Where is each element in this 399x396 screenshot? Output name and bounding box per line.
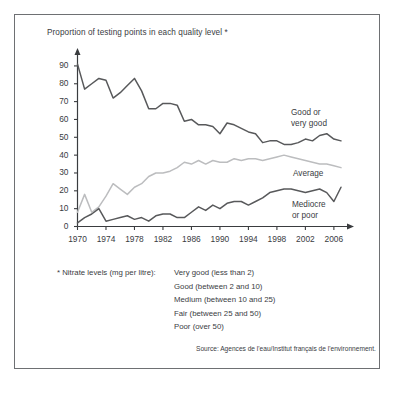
source-credit: Source: Agences de l'eau/Institut frança… bbox=[196, 345, 376, 352]
series-label-average: Average bbox=[293, 169, 323, 180]
series-label-average-text: Average bbox=[293, 169, 323, 180]
x-tick-1986: 1986 bbox=[175, 234, 207, 244]
y-tick-80: 80 bbox=[47, 78, 69, 88]
footnote-item-1: Good (between 2 and 10) bbox=[174, 280, 275, 294]
x-tick-1974: 1974 bbox=[90, 234, 122, 244]
x-tick-1998: 1998 bbox=[261, 234, 293, 244]
y-tick-90: 90 bbox=[47, 60, 69, 70]
y-tick-40: 40 bbox=[47, 150, 69, 160]
x-tick-2006: 2006 bbox=[318, 234, 350, 244]
y-tick-50: 50 bbox=[47, 132, 69, 142]
x-tick-1970: 1970 bbox=[62, 234, 94, 244]
footnote-item-2: Medium (between 10 and 25) bbox=[174, 293, 275, 307]
y-tick-20: 20 bbox=[47, 185, 69, 195]
series-line-good-or-very-good bbox=[78, 64, 342, 144]
footnote-item-list: Very good (less than 2)Good (between 2 a… bbox=[174, 266, 275, 334]
chart-page: Proportion of testing points in each qua… bbox=[0, 0, 399, 396]
y-tick-30: 30 bbox=[47, 167, 69, 177]
y-tick-10: 10 bbox=[47, 203, 69, 213]
line-chart-plot bbox=[0, 0, 399, 396]
series-label-mediocre-line1: Mediocre bbox=[292, 200, 326, 211]
series-label-mediocre-or-poor: Mediocre or poor bbox=[292, 200, 326, 221]
footnote-heading: * Nitrate levels (mg per litre): bbox=[57, 266, 156, 280]
y-tick-0: 0 bbox=[47, 221, 69, 231]
series-label-good-or-very-good: Good or very good bbox=[291, 108, 327, 129]
series-label-good-line2: very good bbox=[291, 119, 327, 130]
x-tick-1978: 1978 bbox=[118, 234, 150, 244]
x-tick-1990: 1990 bbox=[204, 234, 236, 244]
x-tick-1982: 1982 bbox=[147, 234, 179, 244]
y-tick-60: 60 bbox=[47, 114, 69, 124]
footnote-item-3: Fair (between 25 and 50) bbox=[174, 307, 275, 321]
y-tick-70: 70 bbox=[47, 96, 69, 106]
footnote-item-4: Poor (over 50) bbox=[174, 320, 275, 334]
x-tick-2002: 2002 bbox=[289, 234, 321, 244]
x-tick-1994: 1994 bbox=[232, 234, 264, 244]
footnote-item-0: Very good (less than 2) bbox=[174, 266, 275, 280]
series-label-mediocre-line2: or poor bbox=[292, 211, 326, 222]
series-label-good-line1: Good or bbox=[291, 108, 327, 119]
